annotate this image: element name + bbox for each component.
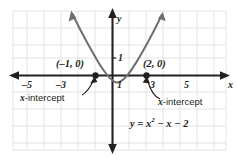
- x-tick-label-1: 1: [117, 80, 122, 90]
- x-tick-label-3: 3: [150, 80, 155, 90]
- parabola-curve: [73, 14, 162, 82]
- x-axis-label: x: [228, 80, 233, 90]
- point-label-right: (2, 0): [143, 59, 166, 70]
- equation-label: y = x2 − x − 2: [130, 117, 188, 129]
- point-label-left: (–1, 0): [56, 59, 84, 70]
- annotation-xintercept-right: x-intercept: [158, 97, 202, 108]
- x-tick-label-neg3: –3: [56, 80, 66, 90]
- annotation-xintercept-left: x-intercept: [20, 93, 64, 104]
- x-tick-label-5: 5: [184, 80, 189, 90]
- y-axis-label: y: [117, 14, 121, 24]
- equation-lhs: y = x: [130, 118, 151, 129]
- equation-rhs: − x − 2: [155, 118, 189, 129]
- x-tick-label-neg5: –5: [22, 80, 32, 90]
- y-tick-label-1: 1: [118, 53, 123, 63]
- graph-figure: –5 –3 1 3 5 1 x y (–1, 0) (2, 0) x-inter…: [0, 0, 237, 167]
- annotation-right-rest: -intercept: [163, 96, 203, 107]
- annotation-left-rest: -intercept: [25, 92, 65, 103]
- intercept-point-left: [92, 72, 98, 78]
